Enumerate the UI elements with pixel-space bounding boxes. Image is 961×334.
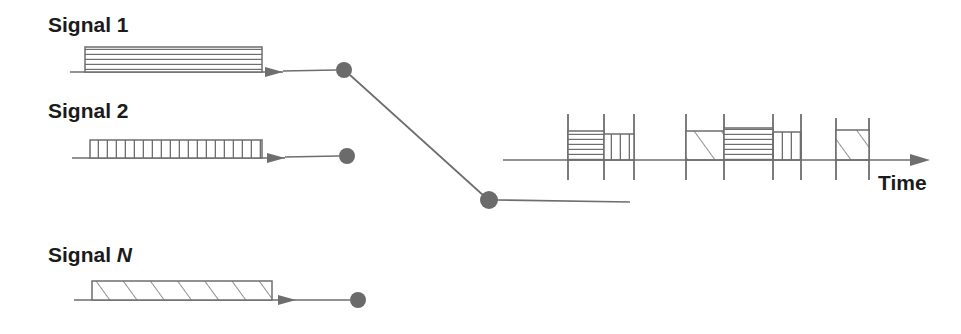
cluster-2 [686,114,801,180]
signal-burst-block-3 [92,281,272,300]
cluster-1 [568,114,634,180]
timeline-axis-group: Time [503,114,930,194]
signal-row-3: Signal N [48,243,366,308]
cluster-3 [836,118,869,180]
signal-burst-block-1 [85,47,262,72]
signal-timeline-diagram: Signal 1Signal 2Signal N Time [0,0,961,334]
signal-row-1: Signal 1 [48,13,352,78]
signal-burst-block-2 [90,140,262,158]
cluster-1-block-1 [568,131,604,160]
signal-node-3[interactable] [350,292,366,308]
cluster-2-block-1 [686,131,724,160]
cluster-2-block-2 [724,128,773,160]
cluster-1-block-2 [604,134,634,160]
input-signals-group: Signal 1Signal 2Signal N [48,13,366,308]
time-axis-arrowhead [910,154,930,166]
fan-diagonal-link [350,75,484,196]
signal-label-2: Signal 2 [48,99,129,122]
fan-tail-link [497,200,630,202]
signal-label-3: Signal N [48,243,133,266]
signal-arrowhead-3 [278,295,296,305]
cluster-2-block-3 [773,132,801,160]
cluster-3-block-1 [836,130,869,160]
signal-connector-2 [285,156,339,157]
time-axis-label: Time [878,171,927,194]
signal-label-1: Signal 1 [48,13,129,36]
signal-node-2[interactable] [339,148,355,164]
signal-row-2: Signal 2 [48,99,355,164]
fan-merge-node[interactable] [480,191,498,209]
signal-arrowhead-1 [265,67,283,77]
signal-label-index: N [117,243,133,266]
signal-connector-1 [283,70,336,71]
signal-arrowhead-2 [267,153,285,163]
diagram-canvas: Signal 1Signal 2Signal N Time [0,0,961,334]
